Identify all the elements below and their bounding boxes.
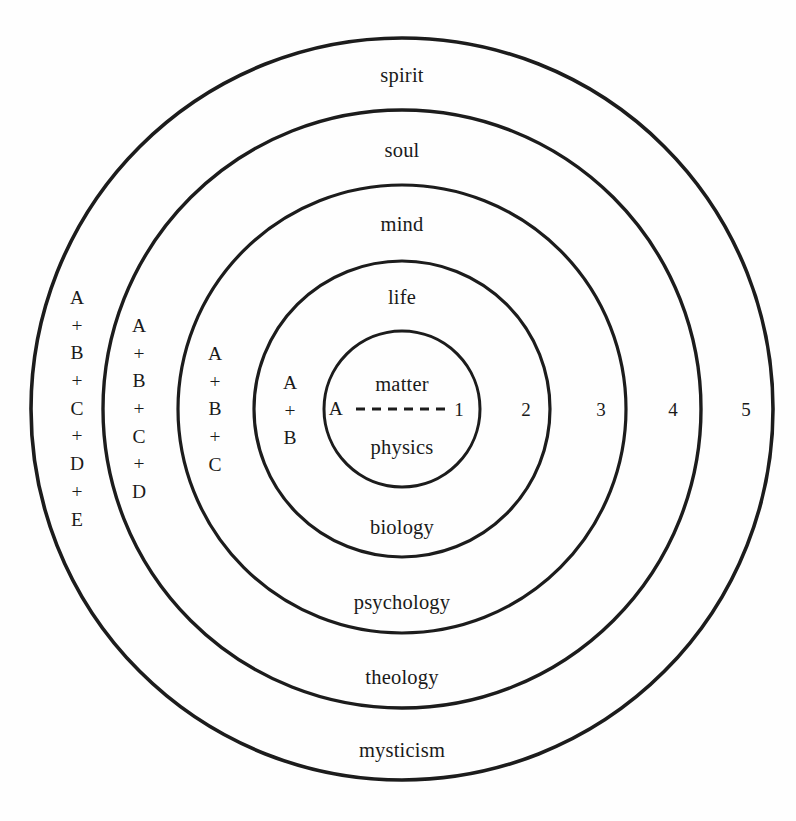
stack-abcde: A+B+C+D+E <box>70 284 84 533</box>
ring-3 <box>178 185 626 633</box>
stack-glyph: A <box>70 284 84 312</box>
stack-glyph: C <box>132 423 145 451</box>
stack-glyph: B <box>208 395 221 423</box>
ring-number-1: 1 <box>454 400 464 419</box>
level-label-life: life <box>388 287 416 308</box>
stack-glyph: C <box>208 451 221 479</box>
stack-glyph: + <box>134 340 145 368</box>
ring-number-2: 2 <box>521 400 531 419</box>
stack-glyph: A <box>132 312 146 340</box>
stack-glyph: B <box>132 367 145 395</box>
level-label-spirit: spirit <box>380 65 423 86</box>
stack-glyph: B <box>70 340 83 368</box>
science-label-biology: biology <box>370 517 434 538</box>
stack-glyph: + <box>72 478 83 506</box>
stack-glyph: + <box>134 395 145 423</box>
stack-glyph: + <box>210 423 221 451</box>
level-label-mind: mind <box>381 214 424 235</box>
stack-glyph: D <box>132 478 146 506</box>
ring-4 <box>103 110 701 708</box>
stack-glyph: B <box>283 425 296 453</box>
stack-glyph: A <box>283 369 297 397</box>
stack-glyph: C <box>70 395 83 423</box>
core-left-letter-label: A <box>329 399 343 419</box>
stack-glyph: + <box>72 423 83 451</box>
stack-abcd: A+B+C+D <box>132 312 146 506</box>
stack-glyph: D <box>70 451 84 479</box>
stack-ab: A+B <box>283 369 297 452</box>
stack-glyph: + <box>72 312 83 340</box>
stack-glyph: + <box>210 367 221 395</box>
stack-glyph: + <box>134 451 145 479</box>
stack-glyph: + <box>285 397 296 425</box>
stack-glyph: + <box>72 367 83 395</box>
stack-abc: A+B+C <box>208 340 222 478</box>
concentric-rings-diagram: spiritsoulmindlifematter physicsbiologyp… <box>0 0 796 821</box>
science-label-physics: physics <box>371 437 434 458</box>
ring-number-4: 4 <box>668 400 678 419</box>
science-label-mysticism: mysticism <box>359 740 445 761</box>
level-label-soul: soul <box>385 140 420 161</box>
stack-glyph: E <box>71 506 83 534</box>
stack-glyph: A <box>208 340 222 368</box>
ring-number-5: 5 <box>741 400 751 419</box>
level-label-matter: matter <box>375 374 429 395</box>
science-label-psychology: psychology <box>354 592 451 613</box>
ring-number-3: 3 <box>596 400 606 419</box>
science-label-theology: theology <box>365 667 438 688</box>
